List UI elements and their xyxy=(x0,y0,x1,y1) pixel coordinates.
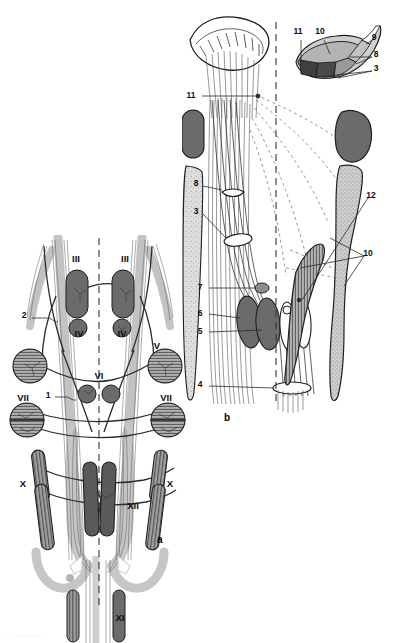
nucleus-VI-right xyxy=(102,385,120,403)
figure-canvas: IIIIIIIVIVVVIVIIVIIXXXIIXI21 a xyxy=(0,0,396,643)
panel-a-tract-bands xyxy=(30,238,170,643)
nerve-label-xi: XI xyxy=(116,612,125,623)
nucleus-XII-left xyxy=(83,462,100,536)
nerve-label-v: V xyxy=(154,340,161,351)
callout-2: 2 xyxy=(22,310,27,320)
panel-b-base-ellipse-4 xyxy=(273,382,311,394)
inset-callout-9: 9 xyxy=(372,32,377,42)
nucleus-III-left xyxy=(66,270,88,318)
nerve-label-iv: IV xyxy=(75,328,85,339)
callout-5: 5 xyxy=(198,326,203,336)
panel-b-arc-fibres xyxy=(212,100,294,328)
nerve-label-vi: VI xyxy=(95,370,104,381)
panel-b-graphic xyxy=(182,17,372,413)
panel-b-ribbon xyxy=(190,17,269,118)
callout-8: 8 xyxy=(194,178,199,188)
inset-callout-11: 11 xyxy=(294,26,303,36)
callout-11: 11 xyxy=(187,90,196,100)
nucleus-V-left xyxy=(13,349,47,383)
callout-10: 10 xyxy=(363,248,373,258)
nucleus-VII-left xyxy=(10,403,44,437)
panel-a-graphic xyxy=(10,238,185,643)
nerve-label-iv: IV xyxy=(118,328,128,339)
nerve-label-iii: III xyxy=(121,253,129,264)
nucleus-III-right xyxy=(112,270,134,318)
nucleus-V-right xyxy=(148,349,182,383)
panel-b-left-nucleus-dark xyxy=(182,110,204,158)
inset-callout-10: 10 xyxy=(315,26,325,36)
nucleus-XII-right xyxy=(100,462,117,536)
panel-b-inset xyxy=(296,26,381,78)
nucleus-X-left-lower xyxy=(34,483,55,550)
anatomy-figure: IIIIIIIVIVVVIVIIVIIXXXIIXI21 a xyxy=(0,0,396,643)
nerve-label-x: X xyxy=(167,478,174,489)
panel-b-label: b xyxy=(224,412,230,423)
panel-b-nucleus-7 xyxy=(255,283,269,293)
nucleus-VI-left xyxy=(78,385,96,403)
nucleus-XI-left xyxy=(67,590,79,642)
callout-1: 1 xyxy=(46,390,51,400)
nerve-label-vii: VII xyxy=(17,392,29,403)
nerve-label-x: X xyxy=(20,478,27,489)
nerve-label-iii: III xyxy=(72,253,80,264)
inset-callout-8: 8 xyxy=(374,49,379,59)
panel-b-crescent-nucleus xyxy=(285,244,325,385)
callout-12: 12 xyxy=(366,190,376,200)
nerve-label-xii: XII xyxy=(127,500,139,511)
nucleus-VII-right xyxy=(151,403,185,437)
callout-3: 3 xyxy=(194,206,199,216)
nucleus-X-right-lower xyxy=(145,484,166,551)
callout-6: 6 xyxy=(198,308,203,318)
nerve-label-vii: VII xyxy=(160,392,172,403)
figure-caption-faint: · · ··· ·· · ··· ··· xyxy=(6,633,44,639)
callout-7: 7 xyxy=(198,282,203,292)
panel-b-right-nucleus-dark xyxy=(335,111,371,163)
callout-4: 4 xyxy=(198,379,203,389)
inset-callout-3: 3 xyxy=(374,63,379,73)
panel-a-label: a xyxy=(157,534,163,545)
